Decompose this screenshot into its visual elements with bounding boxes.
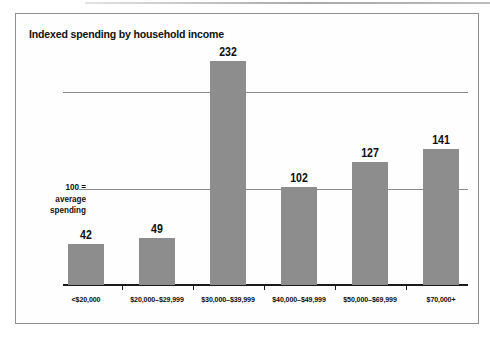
bar-4	[281, 187, 317, 285]
gridline-100	[79, 189, 468, 190]
value-label-1: 42	[60, 228, 113, 241]
category-label-5: $50,000–$69,999	[330, 295, 409, 304]
axis-tick-1	[122, 285, 124, 290]
chart-frame: Indexed spending by household income 100…	[15, 13, 479, 324]
plot-area: 42<$20,00049$20,000–$29,999232$30,000–$3…	[16, 14, 476, 321]
axis-tick-5	[406, 285, 408, 290]
category-label-1: <$20,000	[46, 295, 125, 304]
value-label-5: 127	[344, 146, 397, 159]
axis-tick-3	[264, 285, 266, 290]
value-label-3: 232	[202, 45, 255, 58]
category-label-3: $30,000–$39,999	[188, 295, 267, 304]
x-axis-line	[63, 284, 468, 286]
category-label-4: $40,000–$49,999	[259, 295, 338, 304]
bar-2	[139, 238, 175, 285]
bar-5	[352, 162, 388, 285]
value-label-4: 102	[273, 171, 326, 184]
scan-artifact-line	[85, 2, 490, 4]
axis-tick-2	[193, 285, 195, 290]
bar-3	[210, 61, 246, 285]
chart-page: Indexed spending by household income 100…	[0, 0, 490, 340]
gridline-200	[63, 92, 468, 93]
value-label-2: 49	[131, 222, 184, 235]
bar-1	[68, 244, 104, 285]
bar-6	[423, 149, 459, 285]
category-label-6: $70,000+	[401, 295, 480, 304]
category-label-2: $20,000–$29,999	[117, 295, 196, 304]
value-label-6: 141	[415, 133, 468, 146]
axis-tick-4	[335, 285, 337, 290]
